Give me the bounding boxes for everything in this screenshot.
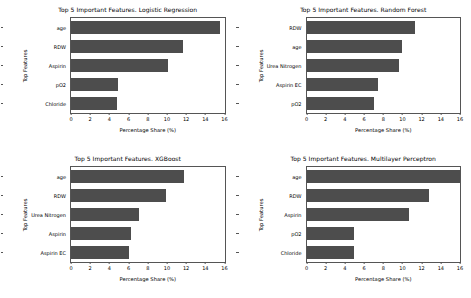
- bar: [71, 97, 117, 109]
- bar-row: [307, 208, 461, 220]
- bar-row: [307, 97, 461, 109]
- bar-row: [71, 59, 225, 71]
- x-tick-label: 6: [127, 116, 130, 122]
- plot-area: Top Features ageRDWAspirinpO2Chloride 02…: [306, 166, 462, 263]
- bar-row: [307, 59, 461, 71]
- x-tick-label: 6: [362, 116, 365, 122]
- x-tick-label: 14: [202, 116, 208, 122]
- x-tick-labels: 0246810121416: [307, 265, 461, 273]
- y-tick-mark: [236, 103, 238, 104]
- y-tick-label: Aspirin EC: [239, 78, 305, 90]
- x-axis-label: Percentage Share (%): [307, 127, 461, 133]
- x-tick-label: 8: [146, 116, 149, 122]
- chart-panel-xgboost: Top 5 Important Features. XGBoost Top Fe…: [0, 149, 236, 298]
- bar: [71, 21, 220, 33]
- y-tick-mark: [1, 27, 3, 28]
- x-tick-label: 16: [221, 265, 227, 271]
- y-tick-label: pO2: [3, 78, 69, 90]
- y-tick-mark: [236, 214, 238, 215]
- bar-series: [307, 18, 461, 113]
- y-tick-mark: [236, 233, 238, 234]
- y-tick-label: pO2: [239, 97, 305, 109]
- bar-row: [71, 170, 225, 182]
- y-tick-label: age: [3, 21, 69, 33]
- y-tick-label: RDW: [3, 40, 69, 52]
- bar-row: [307, 21, 461, 33]
- x-tick-label: 2: [89, 265, 92, 271]
- bar-row: [307, 189, 461, 201]
- x-tick-label: 4: [108, 116, 111, 122]
- y-tick-mark: [236, 27, 238, 28]
- x-tick-label: 6: [362, 265, 365, 271]
- bar-row: [71, 189, 225, 201]
- y-tick-labels: ageRDWAspirinpO2Chloride: [239, 167, 305, 262]
- y-tick-mark: [1, 233, 3, 234]
- x-tick-label: 12: [418, 265, 424, 271]
- y-tick-label: Aspirin EC: [3, 246, 69, 258]
- x-tick-label: 4: [343, 265, 346, 271]
- x-tick-labels: 0246810121416: [71, 265, 225, 273]
- x-tick-label: 10: [164, 116, 170, 122]
- y-tick-mark: [236, 176, 238, 177]
- x-tick-label: 4: [343, 116, 346, 122]
- bar: [307, 78, 379, 90]
- y-tick-mark: [1, 84, 3, 85]
- y-tick-label: Chloride: [3, 97, 69, 109]
- x-tick-label: 6: [127, 265, 130, 271]
- x-tick-label: 8: [382, 265, 385, 271]
- x-tick-label: 12: [183, 116, 189, 122]
- x-tick-label: 10: [399, 116, 405, 122]
- y-tick-mark: [236, 65, 238, 66]
- chart-panel-multilayer-perceptron: Top 5 Important Features. Multilayer Per…: [236, 149, 471, 298]
- bar-row: [71, 40, 225, 52]
- x-tick-label: 14: [202, 265, 208, 271]
- y-tick-label: age: [239, 170, 305, 182]
- y-tick-mark: [236, 195, 238, 196]
- chart-title: Top 5 Important Features. Multilayer Per…: [266, 155, 462, 162]
- y-tick-label: RDW: [3, 189, 69, 201]
- x-tick-label: 2: [89, 116, 92, 122]
- x-tick-label: 16: [457, 265, 463, 271]
- bar: [71, 78, 118, 90]
- x-tick-label: 2: [324, 265, 327, 271]
- x-tick-label: 8: [146, 265, 149, 271]
- chart-title: Top 5 Important Features. Logistic Regre…: [30, 6, 226, 13]
- bar: [307, 246, 354, 258]
- bar: [71, 59, 168, 71]
- x-tick-label: 0: [305, 265, 308, 271]
- y-tick-label: RDW: [239, 21, 305, 33]
- bar: [307, 97, 374, 109]
- x-tick-label: 2: [324, 116, 327, 122]
- bar-series: [71, 167, 225, 262]
- x-tick-label: 10: [164, 265, 170, 271]
- y-tick-mark: [1, 176, 3, 177]
- x-tick-labels: 0246810121416: [307, 116, 461, 124]
- y-tick-label: Aspirin: [3, 59, 69, 71]
- bar-row: [71, 21, 225, 33]
- y-tick-label: Urea Nitrogen: [3, 208, 69, 220]
- chart-panel-logistic-regression: Top 5 Important Features. Logistic Regre…: [0, 0, 236, 149]
- x-tick-label: 0: [69, 265, 72, 271]
- bar-row: [307, 246, 461, 258]
- y-tick-mark: [1, 46, 3, 47]
- y-tick-label: Urea Nitrogen: [239, 59, 305, 71]
- y-tick-mark: [1, 195, 3, 196]
- x-tick-label: 12: [418, 116, 424, 122]
- bar: [71, 170, 184, 182]
- bar-row: [71, 208, 225, 220]
- y-tick-mark: [1, 103, 3, 104]
- figure-canvas: Top 5 Important Features. Logistic Regre…: [0, 0, 471, 298]
- bar-row: [307, 40, 461, 52]
- bar-row: [307, 78, 461, 90]
- bar-series: [71, 18, 225, 113]
- y-tick-mark: [236, 46, 238, 47]
- y-tick-label: Aspirin: [239, 208, 305, 220]
- x-tick-label: 14: [438, 265, 444, 271]
- y-tick-label: age: [239, 40, 305, 52]
- bar-row: [71, 78, 225, 90]
- y-tick-label: pO2: [239, 227, 305, 239]
- bar-row: [307, 170, 461, 182]
- y-tick-mark: [1, 65, 3, 66]
- x-tick-label: 8: [382, 116, 385, 122]
- plot-area: Top Features RDWageUrea NitrogenAspirin …: [306, 17, 462, 114]
